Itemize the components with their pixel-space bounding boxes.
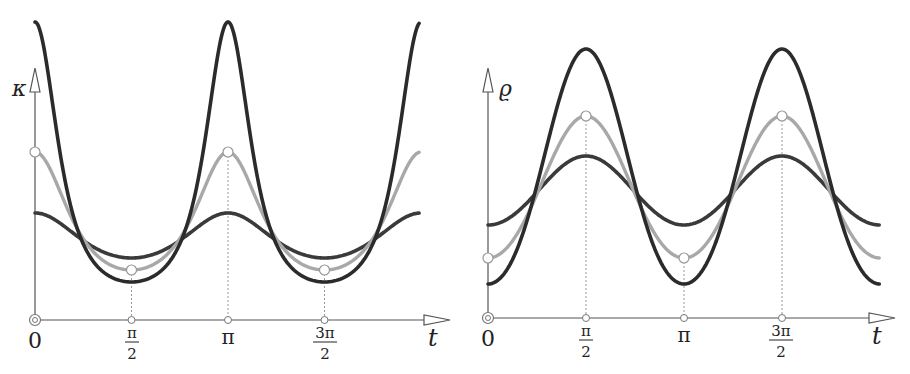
x-tick-marker — [583, 315, 590, 322]
rho-tick-pi-half-num: π — [581, 322, 591, 340]
gray-curve-marker — [679, 253, 689, 263]
gray-curve-marker — [30, 147, 40, 157]
gray-curve-marker — [483, 253, 493, 263]
kappa-y-arrow-icon — [30, 68, 40, 92]
gray-curve-marker — [127, 265, 137, 275]
rho-curves — [488, 49, 879, 284]
x-tick-marker — [225, 317, 232, 324]
kappa-chart: κ t 0 π 2 π 3π 2 — [11, 22, 450, 363]
x-tick-marker — [681, 315, 688, 322]
kappa-tick-pi: π — [221, 325, 234, 349]
kappa-tick-3pi-half-den: 2 — [320, 345, 330, 363]
kappa-y-label: κ — [11, 76, 27, 101]
rho-y-label: ϱ — [499, 76, 512, 101]
kappa-tick-3pi-half-num: 3π — [315, 324, 335, 342]
kappa-tick-pi-half-num: π — [127, 324, 137, 342]
rho-tick-3pi-half-num: 3π — [771, 322, 791, 340]
figure: κ t 0 π 2 π 3π 2 ϱ t 0 π 2 π 3π 2 — [0, 0, 910, 374]
x-tick-marker — [321, 317, 328, 324]
kappa-x-label: t — [428, 324, 438, 352]
kappa-tick-0: 0 — [28, 328, 42, 353]
origin-marker-inner — [33, 318, 38, 323]
rho-y-arrow-icon — [483, 68, 493, 92]
rho-chart: ϱ t 0 π 2 π 3π 2 — [481, 49, 895, 361]
kappa-tick-pi-half-den: 2 — [127, 345, 137, 363]
rho-tick-pi: π — [677, 323, 690, 347]
rho-x-label: t — [872, 322, 882, 350]
x-tick-marker — [128, 317, 135, 324]
x-tick-marker — [779, 315, 786, 322]
gray-curve-marker — [777, 111, 787, 121]
curve-1 — [35, 152, 419, 270]
gray-curve-marker — [223, 147, 233, 157]
gray-curve-marker — [320, 265, 330, 275]
rho-tick-pi-half-den: 2 — [581, 343, 591, 361]
origin-marker-inner — [486, 316, 491, 321]
rho-tick-0: 0 — [481, 326, 495, 351]
gray-curve-marker — [581, 111, 591, 121]
rho-tick-3pi-half-den: 2 — [776, 343, 786, 361]
kappa-tick-guides — [132, 152, 325, 320]
